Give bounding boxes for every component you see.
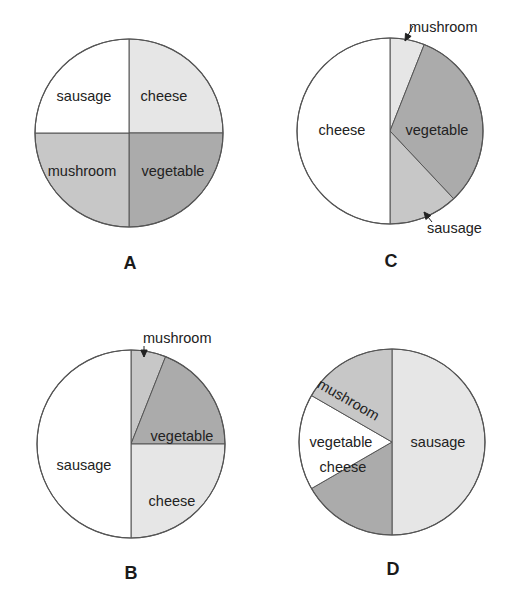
- callout-label-mushroom: mushroom: [409, 19, 478, 35]
- pie-charts-canvas: cheesevegetablemushroomsausageA vegetabl…: [0, 0, 516, 610]
- pie-slice-vegetable: [129, 133, 223, 227]
- slice-label-sausage: sausage: [57, 457, 112, 473]
- slice-label-sausage: sausage: [57, 88, 112, 104]
- pie-chart-b: vegetablecheesesausagemushroomB: [37, 330, 225, 583]
- slice-label-cheese: cheese: [141, 88, 188, 104]
- slice-label-vegetable: vegetable: [151, 428, 214, 444]
- chart-title-letter: B: [125, 563, 138, 583]
- slice-label-mushroom: mushroom: [48, 163, 117, 179]
- callout-label-sausage: sausage: [427, 220, 482, 236]
- slice-label-vegetable: vegetable: [142, 163, 205, 179]
- callout-label-mushroom: mushroom: [143, 330, 212, 346]
- pie-chart-c: vegetablecheesemushroomsausageC: [297, 19, 483, 271]
- pie-slice-sausage: [35, 39, 129, 133]
- pie-slice-cheese: [131, 444, 225, 538]
- slice-label-sausage: sausage: [411, 434, 466, 450]
- chart-title-letter: A: [124, 253, 137, 273]
- slice-label-vegetable: vegetable: [406, 122, 469, 138]
- slice-label-cheese: cheese: [149, 493, 196, 509]
- pie-chart-d: sausagecheesevegetablemushroomD: [299, 349, 485, 579]
- slice-label-cheese: cheese: [320, 459, 367, 475]
- chart-title-letter: D: [387, 559, 400, 579]
- slice-label-cheese: cheese: [319, 122, 366, 138]
- pie-slice-cheese: [129, 39, 223, 133]
- pie-slice-sausage: [37, 350, 131, 538]
- pie-slice-mushroom: [35, 133, 129, 227]
- chart-title-letter: C: [385, 251, 398, 271]
- slice-label-vegetable: vegetable: [310, 434, 373, 450]
- pie-chart-a: cheesevegetablemushroomsausageA: [35, 39, 223, 273]
